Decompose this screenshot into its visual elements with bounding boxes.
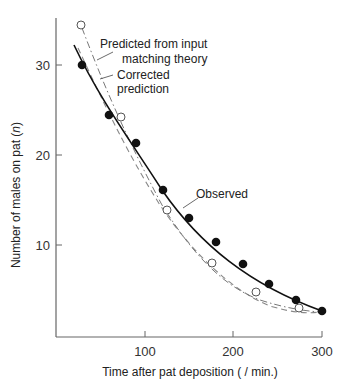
predicted-point	[163, 206, 171, 214]
annotation-observed: Observed	[196, 187, 248, 201]
y-tick-label-20: 20	[36, 148, 50, 163]
corrected-prediction-curve	[78, 48, 320, 313]
y-axis-title-main: Number of males on pat (	[9, 133, 23, 268]
observed-point	[292, 296, 301, 305]
observed-point	[212, 238, 221, 247]
annotation-corrected-line2: prediction	[117, 82, 169, 96]
predicted-point	[252, 288, 260, 296]
y-axis-title-end: )	[9, 122, 23, 126]
observed-point	[185, 214, 194, 223]
predicted-point	[117, 113, 125, 121]
observed-point	[318, 307, 327, 316]
predicted-point	[295, 304, 303, 312]
annotation-corrected-line1: Corrected	[117, 68, 170, 82]
observed-point	[265, 280, 274, 289]
annotation-predicted-line2: matching theory	[122, 52, 207, 66]
observed-curve	[74, 45, 322, 311]
y-axis-title: Number of males on pat (n)	[9, 122, 23, 268]
observed-point	[105, 111, 114, 120]
annotation-predicted-line1: Predicted from input	[100, 37, 208, 51]
chart: 30 20 10 100 200 300 Time after pat depo…	[0, 0, 344, 381]
predicted-point	[208, 259, 216, 267]
observed-point	[78, 61, 87, 70]
corrected-leader-line	[100, 75, 113, 79]
observed-point	[239, 260, 248, 269]
observed-point	[132, 139, 141, 148]
predicted-leader-line	[97, 52, 113, 60]
x-tick-label-100: 100	[134, 344, 156, 359]
x-tick-label-300: 300	[311, 344, 333, 359]
y-tick-label-10: 10	[36, 238, 50, 253]
observed-point	[159, 186, 168, 195]
y-tick-label-30: 30	[36, 58, 50, 73]
x-axis-title: Time after pat deposition ( / min.)	[102, 365, 278, 379]
x-tick-label-200: 200	[222, 344, 244, 359]
predicted-point	[77, 21, 85, 29]
